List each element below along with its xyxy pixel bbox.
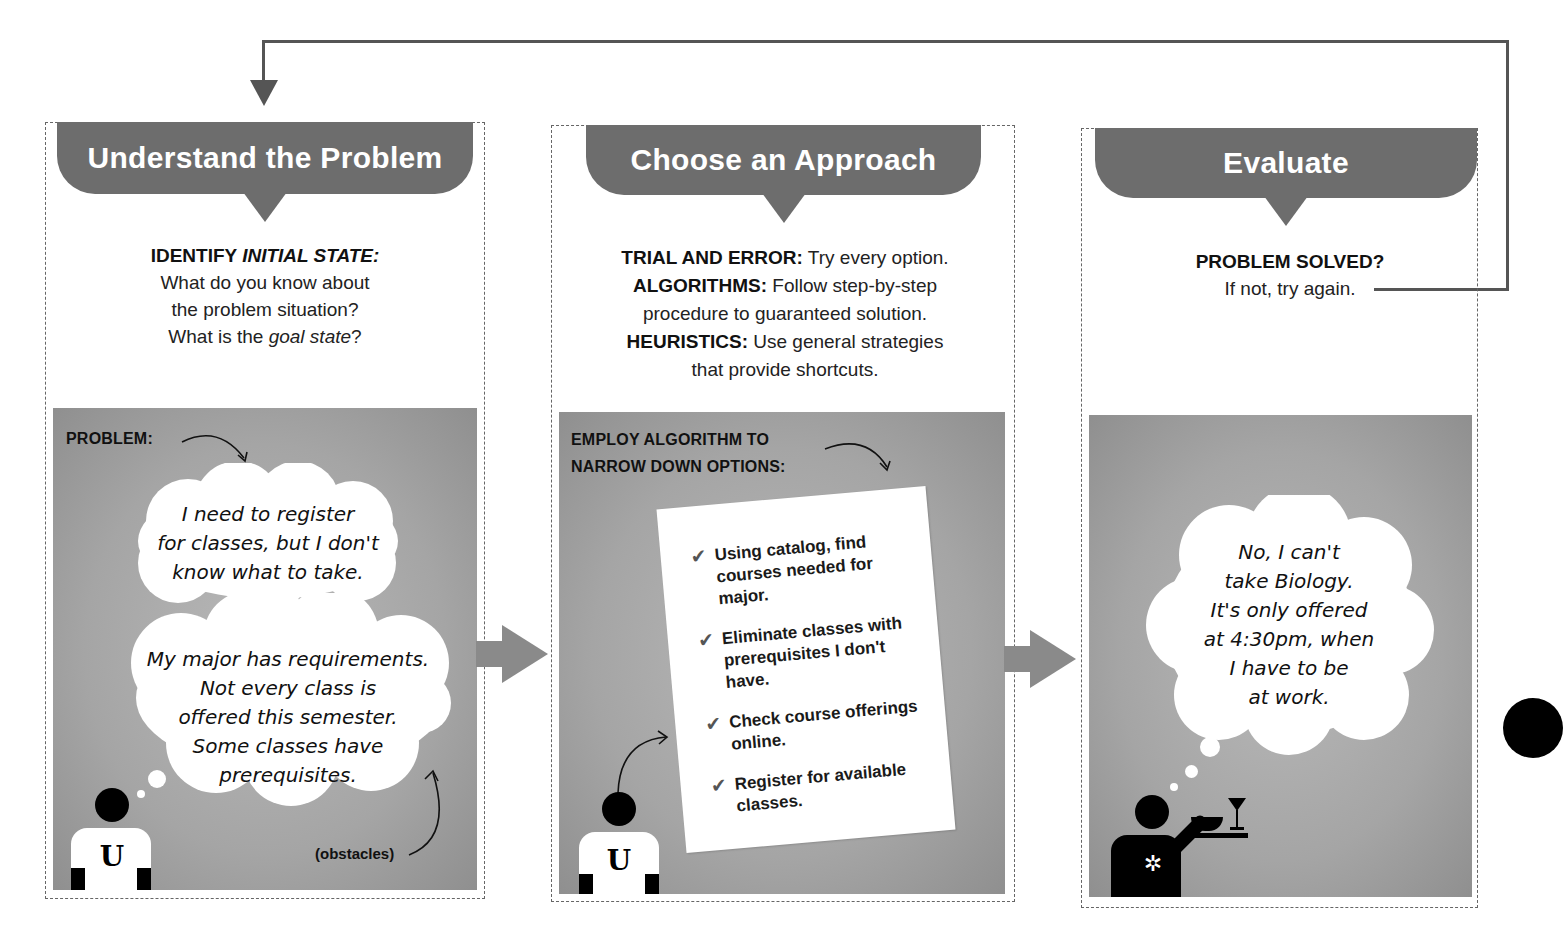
shirt-letter: U	[602, 844, 636, 877]
banner-understand: Understand the Problem	[57, 122, 473, 194]
scene-evaluate: No, I can't take Biology. It's only offe…	[1089, 415, 1472, 897]
algorithm-caption: EMPLOY ALGORITHM TO NARROW DOWN OPTIONS:	[571, 426, 786, 480]
loop-arrow-right	[1506, 40, 1509, 291]
desc-bold: PROBLEM SOLVED?	[1196, 251, 1385, 272]
obstacles-label: (obstacles)	[315, 845, 394, 862]
connector-arrow-icon	[476, 625, 550, 683]
curved-arrow-icon	[403, 763, 453, 863]
checkmark-icon: ✔	[690, 545, 708, 568]
curved-arrow-icon	[614, 727, 674, 797]
banner-approach: Choose an Approach	[586, 125, 981, 195]
step-title: Choose an Approach	[631, 143, 937, 177]
thought-bubble-dot	[1170, 783, 1178, 791]
thought-bubble-dot	[1185, 765, 1198, 778]
desc-bold-italic: INITIAL STATE:	[242, 245, 379, 266]
student-figure-icon: U	[579, 792, 659, 894]
problem-caption: PROBLEM:	[66, 425, 153, 452]
curved-arrow-icon	[178, 428, 258, 468]
loop-arrow-left-drop	[262, 40, 265, 85]
desc-line: the problem situation?	[60, 296, 470, 323]
checkmark-icon: ✔	[710, 774, 728, 797]
banner-pointer-icon	[762, 193, 806, 223]
step-description: PROBLEM SOLVED? If not, try again.	[1130, 248, 1450, 302]
desc-line: If not, try again.	[1130, 275, 1450, 302]
connector-arrow-icon	[1004, 630, 1078, 688]
gear-icon: ✲	[1138, 851, 1168, 877]
loop-arrowhead-icon	[250, 80, 278, 106]
checklist-item: ✔Register for available classes.	[710, 756, 943, 820]
shirt-letter: U	[95, 840, 129, 873]
desc-bold: IDENTIFY	[151, 245, 243, 266]
desc-italic: goal state	[269, 326, 351, 347]
desc-line: What do you know about	[60, 269, 470, 296]
thought-bubble-dot	[148, 770, 166, 788]
curved-arrow-icon	[821, 437, 896, 477]
scene-approach: EMPLOY ALGORITHM TO NARROW DOWN OPTIONS:…	[559, 412, 1005, 894]
checklist-item: ✔Check course offerings online.	[704, 694, 937, 758]
banner-pointer-icon	[243, 192, 287, 222]
checklist-note: ✔Using catalog, find courses needed for …	[656, 486, 955, 853]
thought-text: I need to register for classes, but I do…	[128, 500, 408, 587]
desc-text: ?	[351, 326, 362, 347]
loop-arrow-top	[262, 40, 1509, 43]
page-marker-dot	[1503, 698, 1563, 758]
waiter-figure-icon: ✲	[1111, 795, 1261, 897]
desc-text: What is the	[168, 326, 268, 347]
checklist-item: ✔Using catalog, find courses needed for …	[690, 527, 925, 613]
banner-evaluate: Evaluate	[1095, 128, 1477, 198]
banner-pointer-icon	[1264, 196, 1308, 226]
checklist-item: ✔Eliminate classes with prerequisites I …	[697, 610, 932, 696]
step-description: IDENTIFY INITIAL STATE: What do you know…	[60, 242, 470, 350]
student-figure-icon: U	[71, 788, 153, 890]
step-description: TRIAL AND ERROR: Try every option. ALGOR…	[575, 244, 995, 384]
thought-bubble-dot	[1200, 737, 1220, 757]
thought-text: My major has requirements. Not every cla…	[138, 645, 438, 790]
step-title: Understand the Problem	[88, 141, 443, 175]
checkmark-icon: ✔	[697, 629, 715, 652]
step-title: Evaluate	[1223, 146, 1349, 180]
checkmark-icon: ✔	[704, 713, 722, 736]
thought-text: No, I can't take Biology. It's only offe…	[1149, 538, 1429, 712]
scene-understand: PROBLEM: I need to register for classes,…	[53, 408, 477, 890]
